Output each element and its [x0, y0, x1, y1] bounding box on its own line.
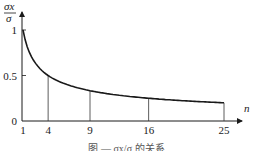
y-tick-label: 0 — [12, 115, 18, 127]
x-ticks: 1491625 — [20, 124, 230, 136]
y-tick-label: 1 — [12, 24, 18, 36]
y-ticks: 00.51 — [3, 24, 26, 127]
y-label-denominator: σ — [6, 12, 12, 24]
x-label: n — [244, 102, 250, 114]
x-tick-label: 25 — [219, 124, 231, 136]
figure-caption: 图 — σx/σ 的关系 — [0, 140, 253, 151]
y-label-numerator: σx — [4, 0, 14, 12]
curve — [23, 30, 224, 103]
x-tick-label: 4 — [45, 124, 51, 136]
chart: 00.51 1491625 σx σ n — [0, 0, 253, 151]
y-tick-label: 0.5 — [3, 70, 17, 82]
x-tick-label: 1 — [20, 124, 26, 136]
x-tick-label: 16 — [143, 124, 155, 136]
x-tick-label: 9 — [87, 124, 93, 136]
drop-lines — [48, 76, 224, 122]
